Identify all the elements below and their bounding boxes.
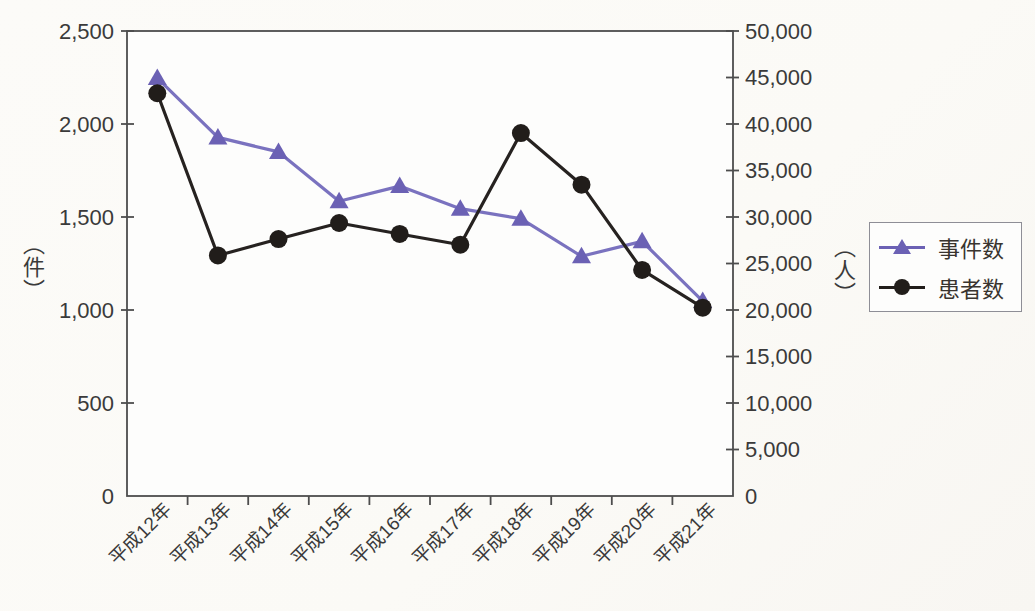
legend: 事件数患者数: [869, 222, 1022, 312]
right-axis-tick-label: 10,000: [745, 391, 812, 416]
left-axis-tick-label: 0: [102, 484, 114, 509]
scanned-chart-page: 05001,0001,5002,0002,50005,00010,00015,0…: [0, 0, 1035, 611]
circle-marker: [451, 236, 469, 254]
x-category-label: 平成16年: [347, 499, 417, 569]
circle-marker: [694, 299, 712, 317]
right-axis-tick-label: 45,000: [745, 65, 812, 90]
right-axis-tick-label: 15,000: [745, 344, 812, 369]
legend-item: 患者数: [879, 271, 1021, 303]
left-axis-unit-label: （件）: [20, 233, 42, 302]
right-axis-tick-label: 40,000: [745, 112, 812, 137]
circle-marker: [391, 225, 409, 243]
circle-shape: [894, 279, 910, 295]
left-axis-tick-label: 1,500: [59, 205, 114, 230]
right-axis-tick-label: 35,000: [745, 158, 812, 183]
left-axis-tick-label: 500: [77, 391, 114, 416]
x-category-label: 平成14年: [226, 499, 296, 569]
legend-item: 事件数: [879, 231, 1021, 263]
right-axis-tick-label: 50,000: [745, 19, 812, 44]
right-axis-tick-label: 30,000: [745, 205, 812, 230]
x-category-label: 平成19年: [529, 499, 599, 569]
triangle-shape: [893, 239, 911, 254]
legend-triangle-marker-icon: [879, 237, 925, 257]
circle-marker: [270, 230, 288, 248]
right-axis-tick-label: 25,000: [745, 251, 812, 276]
right-axis-tick-label: 20,000: [745, 298, 812, 323]
x-category-label: 平成13年: [166, 499, 236, 569]
circle-marker: [209, 246, 227, 264]
legend-label: 患者数: [938, 271, 1004, 303]
left-axis-tick-label: 2,000: [59, 112, 114, 137]
x-category-label: 平成20年: [590, 499, 660, 569]
circle-marker: [330, 214, 348, 232]
right-axis-tick-label: 0: [745, 484, 757, 509]
right-axis-unit-label: （人）: [831, 236, 853, 305]
circle-marker: [512, 124, 530, 142]
x-category-label: 平成12年: [105, 499, 175, 569]
x-category-label: 平成21年: [650, 499, 720, 569]
circle-marker: [573, 176, 591, 194]
circle-marker: [633, 261, 651, 279]
left-axis-tick-label: 1,000: [59, 298, 114, 323]
left-axis-tick-label: 2,500: [59, 19, 114, 44]
x-category-label: 平成17年: [408, 499, 478, 569]
circle-marker: [148, 84, 166, 102]
x-category-label: 平成15年: [287, 499, 357, 569]
x-category-label: 平成18年: [469, 499, 539, 569]
legend-circle-marker-icon: [879, 277, 925, 297]
legend-label: 事件数: [938, 231, 1004, 263]
right-axis-tick-label: 5,000: [745, 437, 800, 462]
